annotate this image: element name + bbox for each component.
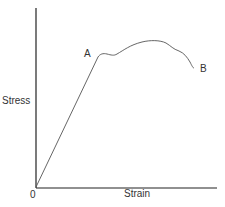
origin-label: 0 [30, 190, 36, 200]
point-b-label: B [200, 64, 207, 74]
y-axis-label: Stress [2, 96, 30, 106]
stress-strain-chart [0, 0, 225, 207]
point-a-label: A [84, 49, 91, 59]
x-axis-label: Strain [124, 189, 150, 199]
stress-strain-curve [36, 41, 194, 187]
